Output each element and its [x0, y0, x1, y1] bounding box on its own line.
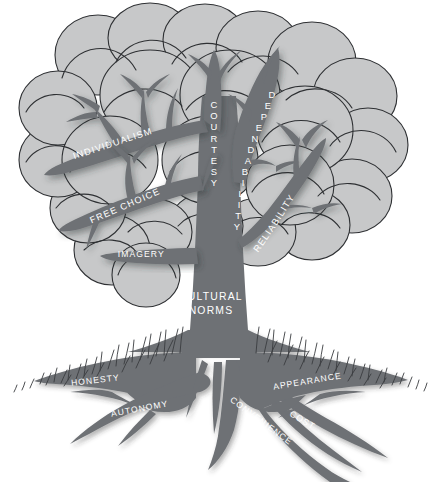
courtesy-letter: C — [211, 99, 218, 110]
dependability-letter: I — [242, 177, 245, 188]
branch-label-courtesy: COURTESY — [210, 99, 218, 188]
dependability-letter: T — [235, 210, 241, 221]
dependability-letter: P — [261, 111, 267, 122]
dependability-letter: A — [245, 155, 252, 166]
dependability-letter: B — [242, 166, 248, 177]
courtesy-letter: T — [211, 144, 217, 155]
dependability-letter: E — [265, 100, 271, 111]
dependability-letter: Y — [234, 221, 241, 232]
dependability-letter: N — [252, 133, 259, 144]
courtesy-letter: S — [211, 166, 217, 177]
dependability-letter: E — [256, 122, 262, 133]
tree-diagram-root: INDIVIDUALISM FREE CHOICE IMAGERY RELIAB… — [0, 0, 438, 482]
dependability-letter: D — [269, 89, 276, 100]
courtesy-letter: O — [210, 110, 217, 121]
courtesy-letter: Y — [211, 177, 218, 188]
branch-label-imagery-text: IMAGERY — [118, 249, 165, 259]
root-appearance — [240, 352, 408, 418]
courtesy-letter: R — [211, 133, 218, 144]
dependability-letter: L — [238, 188, 243, 199]
dependability-letter: I — [238, 199, 241, 210]
dependability-letter: D — [248, 144, 255, 155]
courtesy-letter: U — [211, 121, 218, 132]
branch-label-imagery: IMAGERY — [118, 249, 165, 259]
trunk-label-line2: NORMS — [189, 305, 234, 316]
trunk-label-line1: CULTURAL — [179, 291, 243, 302]
cultural-norms-tree-figure: INDIVIDUALISM FREE CHOICE IMAGERY RELIAB… — [0, 0, 438, 482]
courtesy-letter: E — [211, 155, 217, 166]
